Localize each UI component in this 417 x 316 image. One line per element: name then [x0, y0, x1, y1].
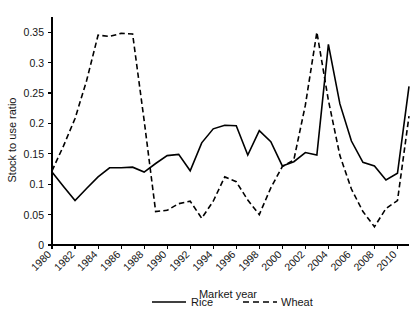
y-tick-label: 0.35 [24, 26, 45, 38]
y-tick-label: 0.25 [24, 87, 45, 99]
stock-to-use-ratio-line-chart: 00.050.10.150.20.250.30.35 1980198219841… [0, 0, 417, 316]
y-tick-label: 0.3 [29, 57, 44, 69]
legend-label-wheat: Wheat [281, 296, 313, 308]
y-tick-label: 0.1 [29, 178, 44, 190]
y-tick-label: 0.05 [24, 209, 45, 221]
y-tick-label: 0.2 [29, 117, 44, 129]
y-tick-label: 0.15 [24, 148, 45, 160]
legend-label-rice: Rice [191, 296, 213, 308]
chart-container: 00.050.10.150.20.250.30.35 1980198219841… [0, 0, 417, 316]
y-axis-title: Stock to use ratio [6, 98, 18, 183]
